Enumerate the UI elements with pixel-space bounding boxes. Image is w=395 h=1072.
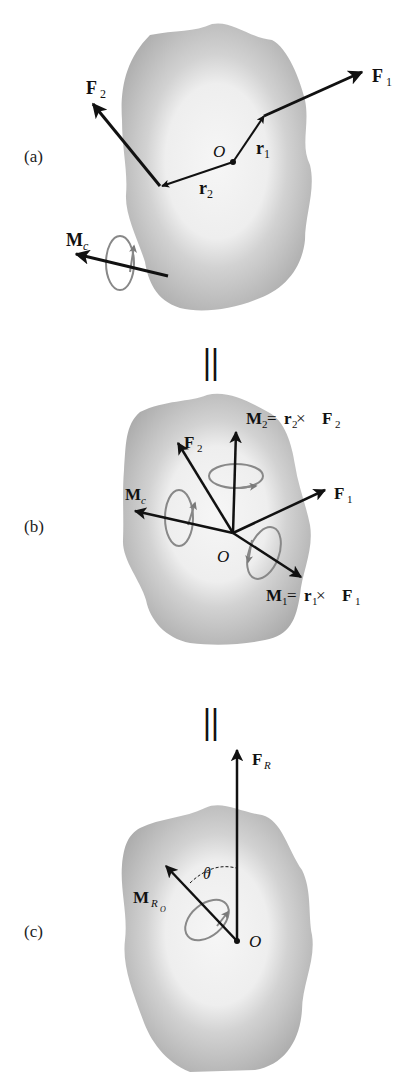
svg-text:2: 2 (197, 442, 203, 454)
force-system-diagram: (a) O F 1 F 2 r 1 r 2 (0, 0, 395, 1072)
equivalence-sign-1: || (203, 341, 219, 381)
svg-text:1: 1 (264, 147, 270, 161)
rigid-body-c (122, 805, 313, 1072)
origin-point-a (230, 159, 236, 165)
svg-text:M: M (133, 888, 149, 907)
svg-text:F: F (372, 66, 383, 86)
svg-text:F: F (322, 409, 332, 428)
svg-text:=: = (287, 586, 297, 605)
svg-text:r: r (284, 409, 292, 428)
rigid-body-b (123, 394, 311, 645)
f1-label: F 1 (372, 66, 392, 89)
svg-text:F: F (184, 433, 194, 452)
svg-text:1: 1 (355, 595, 361, 607)
svg-text:F: F (252, 750, 262, 769)
svg-text:r: r (304, 586, 312, 605)
svg-text:R: R (150, 897, 158, 909)
svg-text:r: r (256, 138, 264, 158)
panel-label-a: (a) (24, 147, 43, 166)
svg-text:c: c (83, 239, 89, 253)
m1-label: M 1 = r 1 × F 1 (266, 586, 361, 607)
theta-label: θ (203, 865, 211, 882)
svg-text:2: 2 (207, 187, 213, 201)
svg-text:O: O (160, 905, 166, 914)
f1-label-b: F 1 (334, 484, 353, 505)
svg-text:M: M (266, 586, 282, 605)
panel-a: (a) O F 1 F 2 r 1 r 2 (24, 23, 392, 310)
svg-text:=: = (267, 409, 277, 428)
svg-text:c: c (141, 494, 146, 506)
m2-label: M 2 = r 2 × F 2 (246, 409, 341, 430)
f2-label: F 2 (86, 78, 106, 101)
svg-text:2: 2 (100, 87, 106, 101)
origin-label-a: O (213, 142, 225, 161)
svg-text:r: r (199, 178, 207, 198)
svg-text:×: × (316, 586, 326, 605)
origin-label-c: O (249, 932, 261, 951)
origin-point-c (234, 938, 240, 944)
svg-text:×: × (296, 409, 306, 428)
svg-text:2: 2 (335, 418, 341, 430)
svg-text:R: R (263, 759, 271, 771)
panel-label-c: (c) (24, 922, 43, 941)
svg-text:1: 1 (347, 493, 353, 505)
svg-text:F: F (86, 78, 97, 98)
svg-text:M: M (246, 409, 262, 428)
mc-label: M c (66, 230, 89, 253)
svg-text:M: M (125, 485, 141, 504)
panel-b: (b) O M 2 = r 2 × F 2 F 2 F (24, 394, 361, 645)
origin-label-b: O (217, 547, 229, 566)
svg-text:1: 1 (386, 75, 392, 89)
svg-text:F: F (334, 484, 344, 503)
svg-text:M: M (66, 230, 83, 250)
panel-c: (c) θ O F R M R O (24, 750, 313, 1072)
panel-label-b: (b) (24, 517, 44, 536)
fr-label: F R (252, 750, 271, 771)
svg-text:F: F (342, 586, 352, 605)
equivalence-sign-2: || (203, 701, 219, 741)
